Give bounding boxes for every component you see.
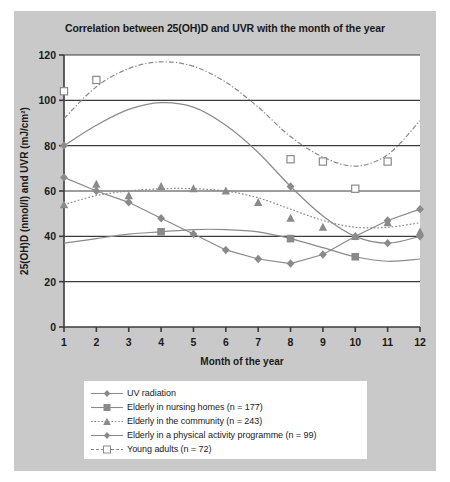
x-tick-label: 9 bbox=[320, 336, 326, 348]
x-tick-label: 5 bbox=[191, 336, 197, 348]
figure-container: Correlation between 25(OH)D and UVR with… bbox=[0, 0, 450, 482]
x-tick-label: 11 bbox=[382, 336, 393, 348]
data-marker-4 bbox=[287, 156, 294, 163]
legend-item: Elderly in the community (n = 243) bbox=[90, 414, 367, 428]
x-tick-label: 1 bbox=[61, 336, 67, 348]
x-tick-label: 10 bbox=[349, 336, 361, 348]
legend-key-young-adults bbox=[90, 443, 124, 456]
legend-item: Elderly in nursing homes (n = 177) bbox=[90, 400, 367, 414]
x-tick-label: 7 bbox=[255, 336, 261, 348]
legend-label: UV radiation bbox=[127, 388, 176, 398]
data-marker-4 bbox=[60, 88, 67, 95]
legend-label: Elderly in the community (n = 243) bbox=[127, 416, 262, 426]
legend-key-physical-activity bbox=[90, 429, 124, 442]
chart-legend: UV radiation Elderly in nursing homes (n… bbox=[84, 381, 367, 459]
y-axis-title: 25(OH)D (nmol/l) and UVR (mJ/cm²) bbox=[19, 107, 30, 275]
y-tick-label: 100 bbox=[38, 94, 56, 106]
x-axis-title: Month of the year bbox=[200, 356, 283, 367]
legend-key-nursing-homes bbox=[90, 401, 124, 414]
chart-plot-area: 020406080100120123456789101112Month of t… bbox=[14, 40, 436, 375]
legend-key-community bbox=[90, 415, 124, 428]
legend-item: UV radiation bbox=[90, 386, 367, 400]
legend-label: Elderly in a physical activity programme… bbox=[127, 430, 316, 440]
legend-key-uv-radiation bbox=[90, 387, 124, 400]
data-marker-1 bbox=[157, 228, 165, 236]
legend-item: Elderly in a physical activity programme… bbox=[90, 428, 367, 442]
y-tick-label: 120 bbox=[38, 49, 56, 61]
x-tick-label: 8 bbox=[288, 336, 294, 348]
x-tick-label: 4 bbox=[158, 336, 164, 348]
x-tick-label: 2 bbox=[93, 336, 99, 348]
y-tick-label: 20 bbox=[44, 276, 56, 288]
y-tick-label: 40 bbox=[44, 230, 56, 242]
data-marker-4 bbox=[384, 158, 391, 165]
x-tick-label: 3 bbox=[126, 336, 132, 348]
data-marker-1 bbox=[351, 253, 359, 261]
x-tick-label: 6 bbox=[223, 336, 229, 348]
chart-title: Correlation between 25(OH)D and UVR with… bbox=[14, 22, 436, 34]
y-tick-label: 0 bbox=[50, 321, 56, 333]
legend-label: Young adults (n = 72) bbox=[127, 444, 211, 454]
data-marker-4 bbox=[319, 158, 326, 165]
legend-item: Young adults (n = 72) bbox=[90, 442, 367, 456]
legend-label: Elderly in nursing homes (n = 177) bbox=[127, 402, 263, 412]
y-tick-label: 80 bbox=[44, 140, 56, 152]
x-tick-label: 12 bbox=[414, 336, 426, 348]
data-marker-1 bbox=[287, 235, 295, 243]
y-tick-label: 60 bbox=[44, 185, 56, 197]
data-marker-4 bbox=[93, 76, 100, 83]
data-marker-4 bbox=[352, 185, 359, 192]
